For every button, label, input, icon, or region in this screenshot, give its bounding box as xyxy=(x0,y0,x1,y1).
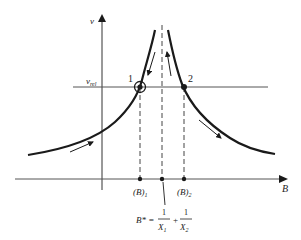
x-axis-label: B xyxy=(282,183,288,194)
y-axis-label: v xyxy=(90,16,94,26)
x-marker-2 xyxy=(182,177,186,181)
bifurcation-diagram: v B vrel 1 2 (B)1 (B)2 B* = 1 X1 + 1 X2 xyxy=(0,0,301,240)
x-marker-2-label: (B)2 xyxy=(177,187,192,198)
point-2-label: 2 xyxy=(188,73,193,84)
y-axis xyxy=(98,14,106,190)
point-1-label: 1 xyxy=(128,73,133,84)
y-axis-arrow-icon xyxy=(98,14,106,22)
x-marker-1-label: (B)1 xyxy=(133,187,148,198)
curve-left-branch xyxy=(28,30,155,155)
x-marker-star xyxy=(160,177,164,181)
frac2-numerator: 1 xyxy=(184,208,188,217)
x-axis xyxy=(15,175,288,183)
equation-pointer xyxy=(163,182,165,205)
frac1-numerator: 1 xyxy=(162,208,166,217)
frac2-denominator: X2 xyxy=(179,222,189,233)
equation-lhs: B* = xyxy=(136,215,154,225)
x-marker-1 xyxy=(138,177,142,181)
equation-plus: + xyxy=(173,215,178,225)
equation: B* = 1 X1 + 1 X2 xyxy=(136,208,192,233)
flow-arrow-icon xyxy=(167,52,171,76)
vrel-label: vrel xyxy=(86,76,97,87)
frac1-denominator: X1 xyxy=(157,222,167,233)
point-2 xyxy=(181,84,187,90)
x-axis-arrow-icon xyxy=(279,175,288,183)
